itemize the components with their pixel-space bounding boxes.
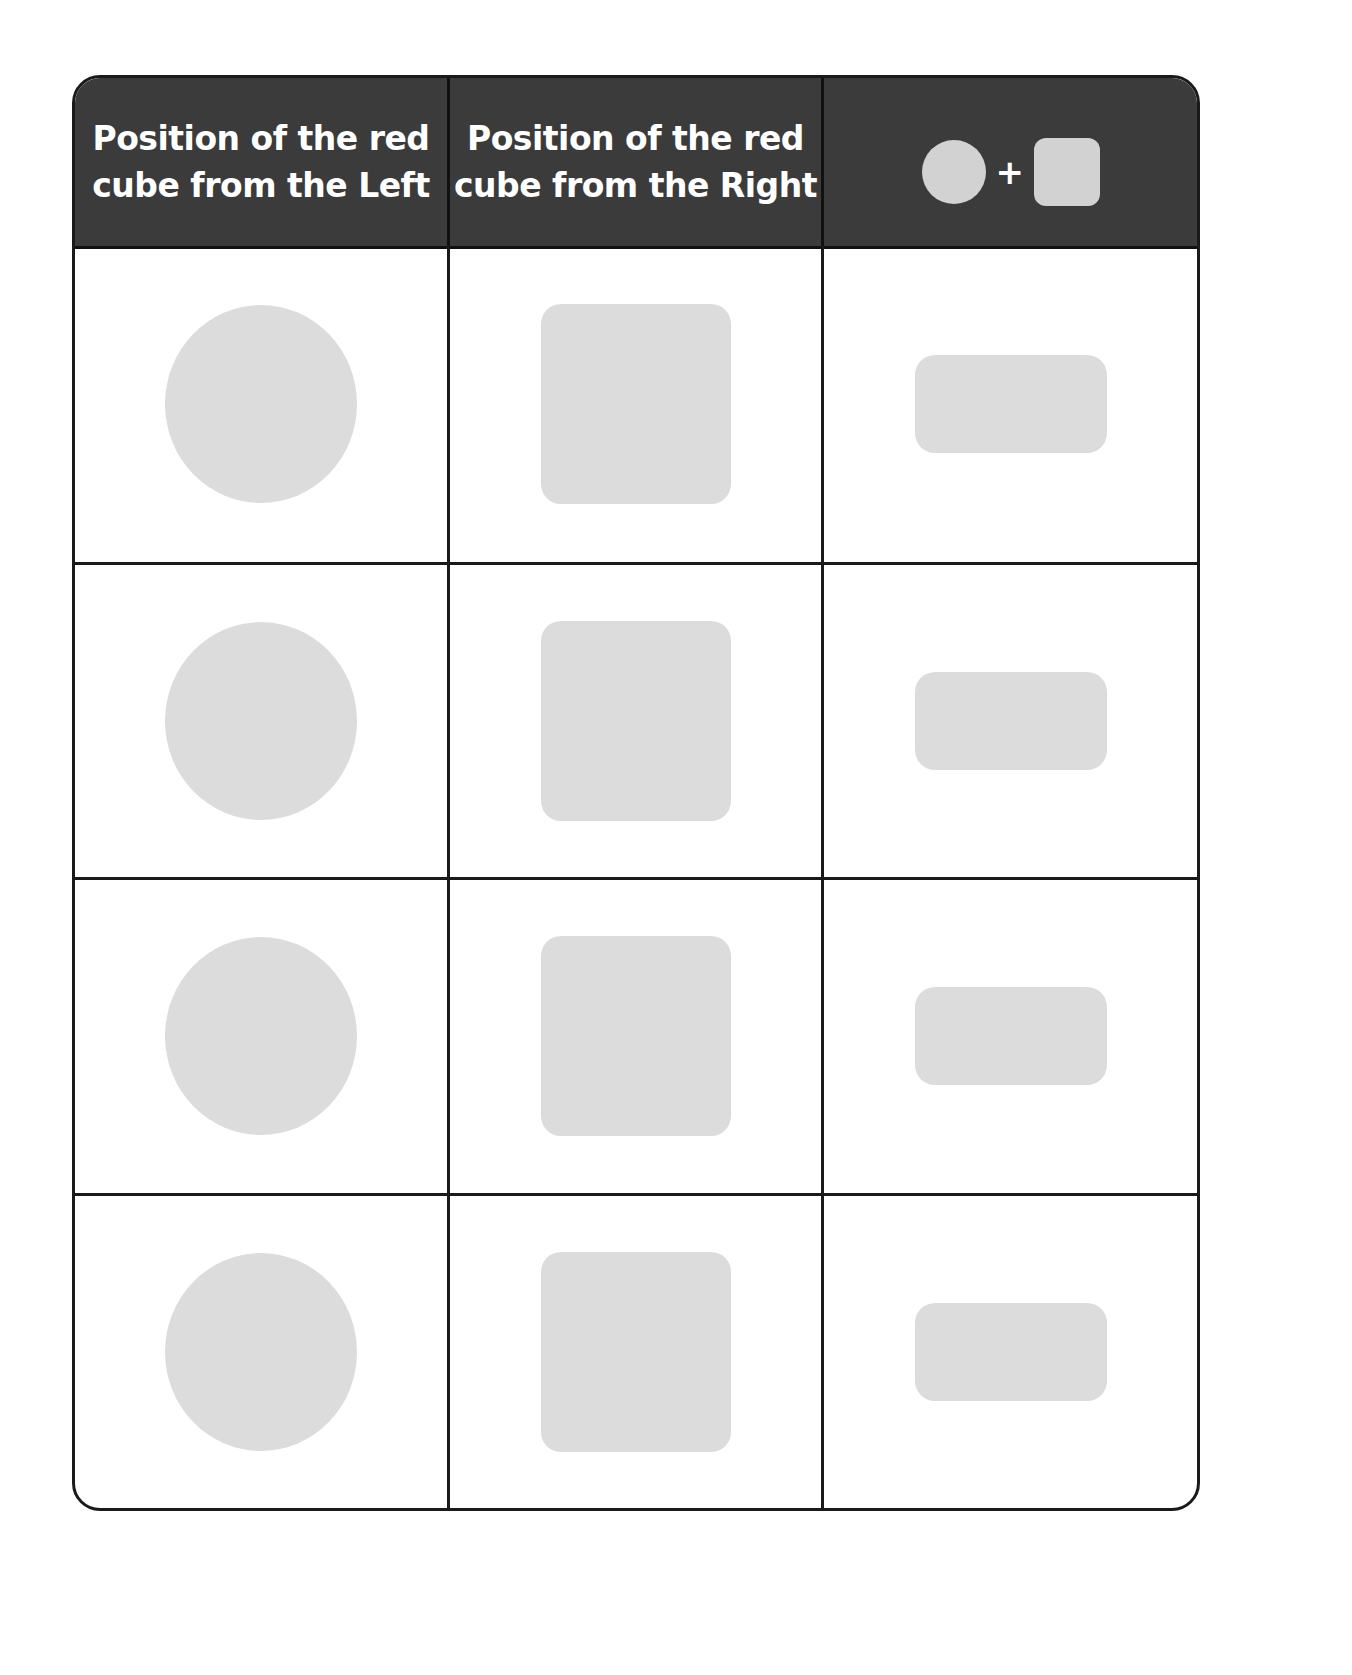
- answer-circle[interactable]: [165, 622, 357, 820]
- table-cell-left: [75, 877, 447, 1193]
- circle-icon: [922, 140, 986, 204]
- table-cell-left: [75, 246, 447, 562]
- table-cell-sum: [821, 562, 1197, 878]
- header-label: Position of the red cube from the Left: [92, 115, 429, 209]
- answer-square[interactable]: [541, 621, 731, 821]
- answer-square[interactable]: [541, 936, 731, 1136]
- answer-sum-box[interactable]: [915, 987, 1107, 1085]
- table-cell-right: [447, 246, 821, 562]
- table-cell-right: [447, 562, 821, 878]
- table-header: Position of the red cube from the Left P…: [75, 78, 1197, 249]
- answer-sum-box[interactable]: [915, 355, 1107, 453]
- table-cell-left: [75, 562, 447, 878]
- table-cell-right: [447, 1193, 821, 1509]
- answer-circle[interactable]: [165, 1253, 357, 1451]
- answer-circle[interactable]: [165, 937, 357, 1135]
- table-cell-sum: [821, 1193, 1197, 1509]
- answer-square[interactable]: [541, 1252, 731, 1452]
- square-icon: [1034, 138, 1100, 206]
- header-label: Position of the red cube from the Right: [454, 115, 817, 209]
- answer-sum-box[interactable]: [915, 1303, 1107, 1401]
- header-position-from-left: Position of the red cube from the Left: [75, 78, 447, 246]
- circle-plus-square-legend: +: [922, 138, 1100, 206]
- table-cell-left: [75, 1193, 447, 1509]
- answer-circle[interactable]: [165, 305, 357, 503]
- worksheet-table: Position of the red cube from the Left P…: [72, 75, 1200, 1511]
- answer-sum-box[interactable]: [915, 672, 1107, 770]
- table-body: [75, 246, 1197, 1508]
- table-cell-sum: [821, 877, 1197, 1193]
- plus-icon: +: [996, 149, 1024, 196]
- table-cell-sum: [821, 246, 1197, 562]
- answer-square[interactable]: [541, 304, 731, 504]
- header-position-from-right: Position of the red cube from the Right: [447, 78, 821, 246]
- header-sum-legend: +: [821, 78, 1197, 246]
- table-cell-right: [447, 877, 821, 1193]
